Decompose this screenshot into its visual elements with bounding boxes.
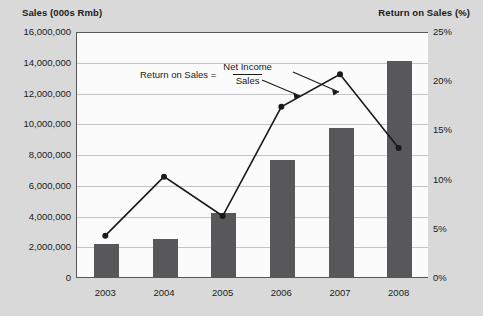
bar xyxy=(94,244,119,278)
formula-fraction: Net Income Sales xyxy=(220,62,275,87)
formula-lhs: Return on Sales = xyxy=(140,69,220,80)
right-axis-tick-labels: 0%5%10%15%20%25% xyxy=(433,0,483,316)
formula-annotation: Return on Sales = Net Income Sales xyxy=(140,62,275,87)
left-axis-tick: 16,000,000 xyxy=(23,27,71,37)
gridline xyxy=(77,217,428,218)
left-axis-tick: 0 xyxy=(66,273,71,283)
x-axis-tick: 2005 xyxy=(212,287,233,298)
bar xyxy=(270,160,295,278)
bar xyxy=(387,61,412,278)
bar xyxy=(153,239,178,278)
left-axis-tick: 8,000,000 xyxy=(29,150,71,160)
left-axis-tick: 4,000,000 xyxy=(29,212,71,222)
x-axis-tick: 2008 xyxy=(388,287,409,298)
right-axis-tick: 5% xyxy=(433,224,447,234)
gridline xyxy=(77,124,428,125)
bar xyxy=(211,213,236,278)
right-axis-tick: 25% xyxy=(433,27,452,37)
gridline xyxy=(77,186,428,187)
left-axis-tick: 14,000,000 xyxy=(23,58,71,68)
right-axis-tick: 15% xyxy=(433,125,452,135)
gridline xyxy=(77,155,428,156)
bar xyxy=(329,128,354,278)
left-axis-tick: 6,000,000 xyxy=(29,181,71,191)
x-axis-tick: 2003 xyxy=(95,287,116,298)
x-axis-tick: 2004 xyxy=(153,287,174,298)
x-axis-tick: 2007 xyxy=(329,287,350,298)
right-axis-tick: 0% xyxy=(433,273,447,283)
left-axis-tick: 10,000,000 xyxy=(23,119,71,129)
combo-chart: Sales (000s Rmb) Return on Sales (%) 02,… xyxy=(0,0,483,316)
gridline xyxy=(77,94,428,95)
x-axis-tick: 2006 xyxy=(271,287,292,298)
formula-numerator: Net Income xyxy=(220,62,275,74)
left-axis-tick: 12,000,000 xyxy=(23,89,71,99)
gridline xyxy=(77,247,428,248)
gridline xyxy=(77,32,428,33)
right-axis-tick: 20% xyxy=(433,76,452,86)
formula-denominator: Sales xyxy=(233,74,263,87)
left-axis-tick-labels: 02,000,0004,000,0006,000,0008,000,00010,… xyxy=(0,0,71,316)
right-axis-tick: 10% xyxy=(433,175,452,185)
left-axis-tick: 2,000,000 xyxy=(29,242,71,252)
